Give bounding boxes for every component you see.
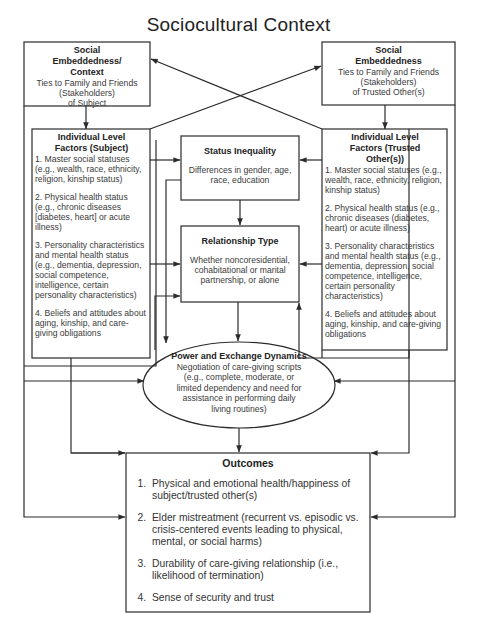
outcome-text: Physical and emotional health/happiness … [152,478,368,502]
relationship-type-box: Relationship Type Whether noncoresidenti… [183,236,297,285]
outcome-item: 2. Elder mistreatment (recurrent vs. epi… [128,512,368,548]
relationship-type-heading: Relationship Type [183,236,297,247]
status-inequality-body: Differences in gender, age, race, educat… [183,165,297,185]
outcome-number: 3. [128,558,152,582]
status-inequality-box: Status Inequality Differences in gender,… [183,146,297,185]
body-line: (Stakeholders) [24,88,150,98]
heading-line: Individual Level [325,132,445,143]
body-line: limited dependency and need for [150,383,328,394]
body-line: of Trusted Other(s) [322,87,455,97]
heading-line: Social [24,45,150,56]
power-exchange-ellipse: Power and Exchange Dynamics Negotiation … [150,351,328,414]
relationship-type-body: Whether noncoresidential, cohabitational… [183,255,297,285]
social-embeddedness-subject-box: Social Embeddedness/ Context Ties to Fam… [24,45,150,108]
heading-line: Embeddedness/ [24,56,150,67]
outcome-item: 3. Durability of care-giving relationshi… [128,558,368,582]
factor-item: 1. Master social statuses (e.g., wealth,… [325,165,445,195]
outcomes-box: Outcomes 1. Physical and emotional healt… [128,458,368,604]
power-exchange-heading: Power and Exchange Dynamics [150,351,328,362]
body-line: Ties to Family and Friends [322,67,455,77]
body-line: Ties to Family and Friends [24,78,150,88]
heading-line: Social [322,45,455,56]
heading-line: Other(s)) [325,154,445,165]
diagram-title: Sociocultural Context [0,14,477,36]
outcome-number: 4. [128,592,152,604]
individual-trusted-box: Individual Level Factors (Trusted Other(… [325,132,445,339]
outcome-text: Elder mistreatment (recurrent vs. episod… [152,512,368,548]
outcome-number: 2. [128,512,152,548]
status-inequality-heading: Status Inequality [183,146,297,157]
individual-subject-box: Individual Level Factors (Subject) 1. Ma… [35,132,148,338]
body-line: Negotiation of care-giving scripts [150,362,328,373]
factor-item: 4. Beliefs and attitudes about aging, ki… [35,308,148,338]
outcome-text: Durability of care-giving relationship (… [152,558,368,582]
body-line: (e.g., complete, moderate, or [150,372,328,383]
body-line: (Stakeholders) [322,77,455,87]
heading-line: Factors (Subject) [35,143,148,154]
outcomes-heading: Outcomes [128,458,368,469]
outcome-item: 4. Sense of security and trust [128,592,368,604]
factor-item: 2. Physical health status (e.g., chronic… [35,192,148,232]
factor-item: 3. Personality characteristics and menta… [325,241,445,301]
factor-item: 1. Master social statuses (e.g., wealth,… [35,154,148,184]
body-line: of Subject [24,98,150,108]
body-line: assistance in performing daily [150,393,328,404]
heading-line: Individual Level [35,132,148,143]
social-embeddedness-trusted-box: Social Embeddedness Ties to Family and F… [322,45,455,97]
heading-line: Context [24,67,150,78]
outcome-text: Sense of security and trust [152,592,274,604]
heading-line: Embeddedness [322,56,455,67]
outcome-item: 1. Physical and emotional health/happine… [128,478,368,502]
factor-item: 4. Beliefs and attitudes about aging, ki… [325,309,445,339]
outcome-number: 1. [128,478,152,502]
heading-line: Factors (Trusted [325,143,445,154]
body-line: living routines) [150,404,328,415]
factor-item: 2. Physical health status (e.g., chronic… [325,203,445,233]
factor-item: 3. Personality characteristics and menta… [35,240,148,300]
